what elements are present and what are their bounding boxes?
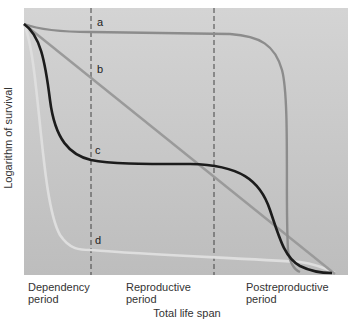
x-category-postreproductive-line2: period <box>246 293 329 305</box>
label-c: c <box>95 144 101 156</box>
label-a: a <box>97 16 104 28</box>
label-d: d <box>95 234 101 246</box>
x-axis-label: Total life span <box>0 307 354 319</box>
x-category-postreproductive-line1: Postreproductive <box>246 281 329 293</box>
y-axis-label: Logarithm of survival <box>2 68 14 208</box>
plot-area <box>24 8 348 275</box>
survivorship-curves-chart: a b c d <box>0 0 354 325</box>
x-category-dependency: Dependency period <box>28 281 90 305</box>
x-category-reproductive: Reproductive period <box>126 281 191 305</box>
x-category-postreproductive: Postreproductive period <box>246 281 329 305</box>
x-category-dependency-line2: period <box>28 293 90 305</box>
x-category-reproductive-line2: period <box>126 293 191 305</box>
x-category-dependency-line1: Dependency <box>28 281 90 293</box>
label-b: b <box>97 63 103 75</box>
x-category-reproductive-line1: Reproductive <box>126 281 191 293</box>
